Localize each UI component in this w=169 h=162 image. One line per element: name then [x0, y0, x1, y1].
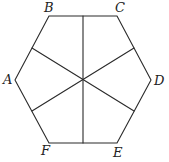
- vertex-label-d: D: [153, 73, 165, 88]
- vertex-label-e: E: [112, 145, 123, 160]
- vertex-label-b: B: [43, 0, 54, 15]
- vertex-label-c: C: [115, 0, 125, 15]
- vertex-label-a: A: [2, 72, 12, 87]
- hexagon-diagram: A B C D E F: [0, 0, 169, 162]
- vertex-label-f: F: [40, 143, 51, 158]
